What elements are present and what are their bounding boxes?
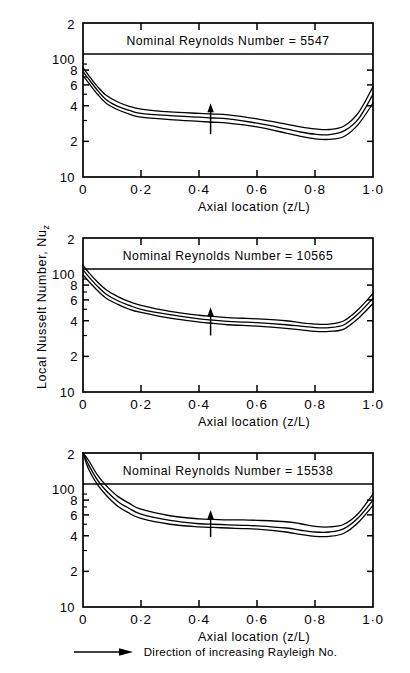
right-arrow-icon [73,645,135,659]
data-series-line [83,275,373,332]
plot-area: Nominal Reynolds Number = 15538102468100… [0,430,410,645]
x-axis-title: Axial location (z/L) [198,200,310,214]
panel-title: Nominal Reynolds Number = 5547 [126,34,329,48]
y-axis-tick-label: 6 [70,508,78,523]
x-axis-tick-label: 0 [79,397,87,412]
y-axis-tick-label: 2 [70,134,78,149]
x-axis-tick-label: 1·0 [362,397,383,412]
data-series-line [83,270,373,328]
x-axis-tick-label: 0·4 [188,397,209,412]
plot-area: Nominal Reynolds Number = 10565102468100… [0,215,410,430]
y-axis-tick-label: 2 [67,447,75,462]
chart-panel-re-5547: Nominal Reynolds Number = 55471024681002… [0,0,410,215]
y-axis-tick-label: 6 [70,78,78,93]
up-arrow-icon [207,103,213,134]
y-axis-tick-label: 100 [52,482,75,497]
x-axis-title: Axial location (z/L) [198,415,310,429]
x-axis-tick-label: 0·6 [246,397,267,412]
up-arrow-icon [207,307,213,335]
data-series-line [83,71,373,134]
x-axis-tick-label: 0·6 [246,612,267,627]
y-axis-tick-label: 6 [70,293,78,308]
y-axis-tick-label: 10 [60,600,75,615]
y-axis-tick-label: 10 [60,385,75,400]
x-axis-tick-label: 0 [79,612,87,627]
x-axis-tick-label: 0·8 [304,397,325,412]
plot-area: Nominal Reynolds Number = 55471024681002… [0,0,410,215]
y-axis-tick-label: 100 [52,52,75,67]
x-axis-tick-label: 1·0 [362,182,383,197]
y-axis-tick-label: 4 [70,99,78,114]
data-series-line [83,68,373,130]
x-axis-tick-label: 0·4 [188,612,209,627]
y-axis-tick-label: 4 [70,314,78,329]
x-axis-tick-label: 0·4 [188,182,209,197]
y-axis-tick-label: 2 [67,17,75,32]
x-axis-tick-label: 0·6 [246,182,267,197]
y-axis-tick-label: 2 [67,232,75,247]
chart-panel-re-10565: Nominal Reynolds Number = 10565102468100… [0,215,410,430]
figure-nusselt-vs-axial-location: Local Nusselt Number, Nuz Nominal Reynol… [0,0,410,673]
x-axis-tick-label: 0 [79,182,87,197]
data-series-line [83,265,373,324]
x-axis-tick-label: 0·8 [304,182,325,197]
x-axis-tick-label: 1·0 [362,612,383,627]
x-axis-tick-label: 0·8 [304,612,325,627]
legend: Direction of increasing Rayleigh No. [0,640,410,664]
panel-title: Nominal Reynolds Number = 15538 [123,464,333,478]
up-arrow-icon [207,510,213,537]
legend-label: Direction of increasing Rayleigh No. [144,646,338,658]
panel-title: Nominal Reynolds Number = 10565 [123,249,333,263]
y-axis-tick-label: 100 [52,267,75,282]
y-axis-tick-label: 4 [70,529,78,544]
y-axis-tick-label: 10 [60,170,75,185]
x-axis-tick-label: 0·2 [130,612,151,627]
chart-panel-re-15538: Nominal Reynolds Number = 15538102468100… [0,430,410,645]
y-axis-tick-label: 2 [70,564,78,579]
x-axis-tick-label: 0·2 [130,397,151,412]
y-axis-tick-label: 2 [70,349,78,364]
x-axis-tick-label: 0·2 [130,182,151,197]
